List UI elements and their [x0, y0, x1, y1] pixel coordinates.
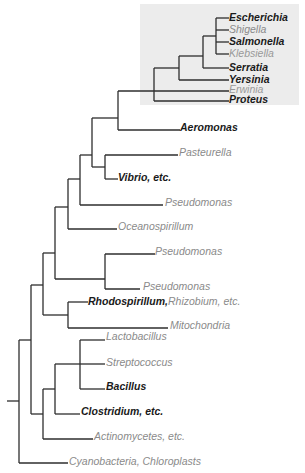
taxon-label-rhizobium: Rhizobium, etc.	[168, 295, 240, 307]
taxon-label-escherichia: Escherichia	[229, 11, 288, 23]
taxon-label-pseudomonas-2: Pseudomonas	[155, 245, 222, 257]
taxon-label-salmonella: Salmonella	[229, 35, 284, 47]
taxon-label-proteus: Proteus	[229, 93, 268, 105]
taxon-label-oceanospirillum: Oceanospirillum	[118, 220, 193, 232]
taxon-label-cyanobacteria: Cyanobacteria, Chloroplasts	[69, 455, 201, 467]
taxon-label-mitochondria: Mitochondria	[170, 319, 230, 331]
taxon-label-clostridium: Clostridium, etc.	[81, 405, 163, 417]
taxon-label-bacillus: Bacillus	[106, 380, 146, 392]
taxon-label-aeromonas: Aeromonas	[180, 121, 238, 133]
taxon-label-actinomycetes: Actinomycetes, etc.	[94, 430, 185, 442]
taxon-label-vibrio: Vibrio, etc.	[118, 171, 171, 183]
taxon-label-rhodospirillum: Rhodospirillum,	[88, 295, 168, 307]
taxon-label-pasteurella: Pasteurella	[179, 146, 232, 158]
taxon-label-shigella: Shigella	[229, 23, 266, 35]
taxon-label-pseudomonas-1: Pseudomonas	[165, 196, 232, 208]
taxon-label-streptococcus: Streptococcus	[106, 356, 173, 368]
taxon-label-serratia: Serratia	[229, 61, 268, 73]
taxon-label-klebsiella: Klebsiella	[229, 47, 274, 59]
taxon-label-lactobacillus: Lactobacillus	[106, 330, 167, 342]
taxon-label-pseudomonas-3: Pseudomonas	[143, 280, 210, 292]
